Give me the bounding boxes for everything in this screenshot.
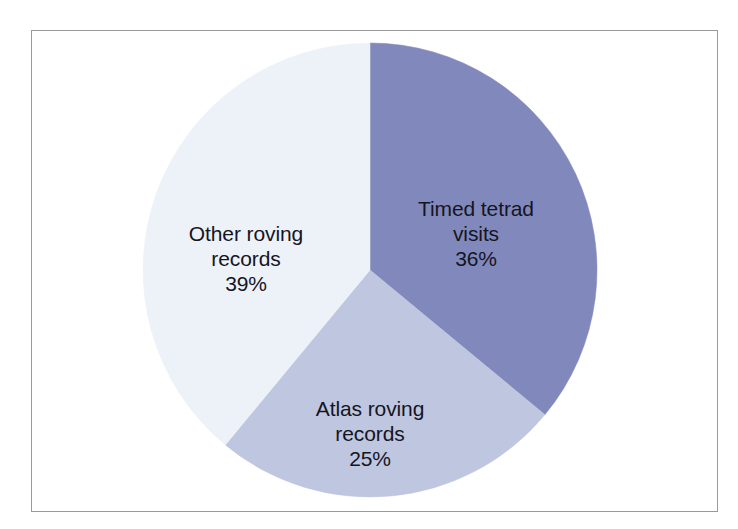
pie-value-timed-tetrad-visits: 36%	[386, 246, 566, 271]
pie-chart-figure: Timed tetrad visits 36% Atlas roving rec…	[0, 0, 738, 529]
pie-label-timed-tetrad-visits-line1: Timed tetrad	[386, 196, 566, 221]
pie-label-timed-tetrad-visits-line2: visits	[386, 221, 566, 246]
pie-label-atlas-roving-records-line2: records	[280, 421, 460, 446]
pie-value-atlas-roving-records: 25%	[280, 446, 460, 471]
pie-label-other-roving-records: Other roving records 39%	[158, 221, 334, 296]
pie-label-timed-tetrad-visits: Timed tetrad visits 36%	[386, 196, 566, 271]
pie-label-other-roving-records-line2: records	[158, 246, 334, 271]
pie-label-other-roving-records-line1: Other roving	[158, 221, 334, 246]
pie-label-atlas-roving-records-line1: Atlas roving	[280, 396, 460, 421]
pie-value-other-roving-records: 39%	[158, 271, 334, 296]
pie-label-atlas-roving-records: Atlas roving records 25%	[280, 396, 460, 471]
